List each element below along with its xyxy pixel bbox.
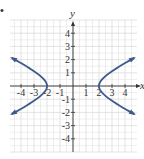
x-tick-label: 1 [84,87,89,98]
y-axis-arrow-icon [71,21,75,26]
y-tick-label: -4 [62,133,70,144]
y-tick-label: -1 [62,94,70,105]
y-tick-label: 3 [65,41,70,52]
x-tick-label: -4 [17,87,25,98]
x-axis-label: x [139,79,144,91]
y-tick-label: 4 [65,28,70,39]
y-tick-label: 2 [65,54,70,65]
y-tick-label: -2 [62,107,70,118]
y-tick-label: -3 [62,120,70,131]
x-tick-label: -3 [30,87,38,98]
x-tick-label: 3 [110,87,115,98]
x-tick-label: 4 [123,87,128,98]
y-axis-label: y [69,7,75,19]
hyperbola-graph: xy -4-3-2-112344321-1-2-3-4 [0,0,144,159]
y-tick-label: 1 [65,67,70,78]
